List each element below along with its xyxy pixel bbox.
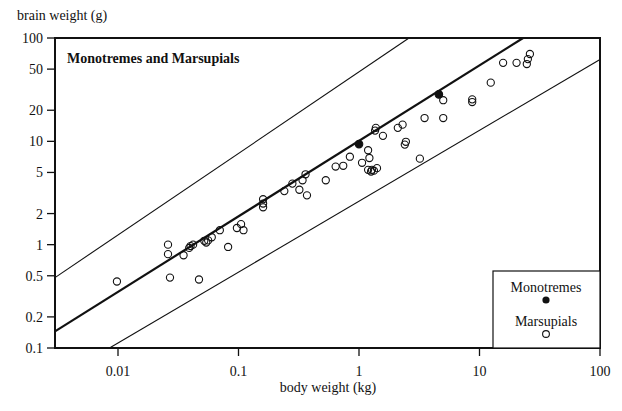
marsupial-point (303, 192, 310, 199)
x-tick-label: 10 (473, 364, 487, 379)
marsupial-point (296, 186, 303, 193)
marsupial-point (113, 278, 120, 285)
legend-marker-marsupials (543, 331, 550, 338)
marsupial-point (365, 147, 372, 154)
y-tick-label: 50 (29, 62, 43, 77)
marsupial-point (500, 59, 507, 66)
marsupial-point (487, 79, 494, 86)
y-tick-label: 0.2 (26, 310, 44, 325)
marsupial-point (195, 276, 202, 283)
y-tick-label: 1 (36, 238, 43, 253)
monotreme-point (355, 140, 363, 148)
x-tick-label: 0.01 (106, 364, 131, 379)
marsupial-point (358, 159, 365, 166)
panel-title: Monotremes and Marsupials (67, 51, 240, 66)
y-tick-label: 10 (29, 134, 43, 149)
y-tick-label: 5 (36, 165, 43, 180)
data-points (113, 50, 533, 285)
marsupial-point (332, 163, 339, 170)
marsupial-point (346, 153, 353, 160)
y-tick-label: 100 (22, 31, 43, 46)
marsupial-point (180, 252, 187, 259)
chart: brain weight (g) 0.10.20.5125102050100 0… (0, 0, 622, 411)
marsupial-point (416, 155, 423, 162)
y-tick-label: 0.1 (26, 341, 44, 356)
marsupial-point (523, 60, 530, 67)
marsupial-point (440, 114, 447, 121)
marsupial-point (225, 243, 232, 250)
marsupial-point (240, 227, 247, 234)
marsupial-point (340, 162, 347, 169)
y-axis: 0.10.20.5125102050100 (22, 31, 55, 356)
x-tick-label: 0.1 (230, 364, 248, 379)
y-tick-label: 20 (29, 103, 43, 118)
legend-label-marsupials: Marsupials (515, 314, 577, 329)
marsupial-point (440, 97, 447, 104)
marsupial-point (164, 251, 171, 258)
y-axis-title: brain weight (g) (17, 8, 108, 24)
y-tick-label: 0.5 (26, 269, 44, 284)
marsupial-point (166, 274, 173, 281)
x-axis-title: body weight (kg) (280, 380, 377, 396)
marsupial-point (322, 177, 329, 184)
marsupial-point (164, 241, 171, 248)
marsupial-point (379, 132, 386, 139)
x-axis: 0.010.1110100 (106, 348, 611, 379)
y-tick-label: 2 (36, 207, 43, 222)
x-tick-label: 1 (356, 364, 363, 379)
legend: Monotremes Marsupials (493, 271, 600, 348)
marsupial-point (421, 114, 428, 121)
legend-label-monotremes: Monotremes (511, 280, 582, 295)
legend-marker-monotremes (542, 296, 549, 303)
upper-bound-line (55, 38, 409, 278)
x-tick-label: 100 (590, 364, 611, 379)
marsupial-point (366, 154, 373, 161)
marsupial-point (513, 59, 520, 66)
